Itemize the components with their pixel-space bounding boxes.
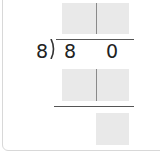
quotient-ones-box[interactable] bbox=[97, 3, 129, 34]
subtraction-line bbox=[54, 106, 134, 107]
subtract-ones-box[interactable] bbox=[97, 69, 129, 101]
subtract-box-divider bbox=[96, 69, 97, 101]
subtract-tens-box[interactable] bbox=[62, 69, 96, 101]
division-bracket-icon bbox=[49, 39, 57, 59]
dividend-tens-digit: 8 bbox=[64, 42, 76, 61]
remainder-box[interactable] bbox=[96, 113, 129, 145]
quotient-tens-box[interactable] bbox=[62, 3, 96, 34]
dividend-ones-digit: 0 bbox=[106, 42, 118, 61]
divisor: 8 bbox=[36, 42, 48, 61]
quotient-box-divider bbox=[96, 3, 97, 34]
